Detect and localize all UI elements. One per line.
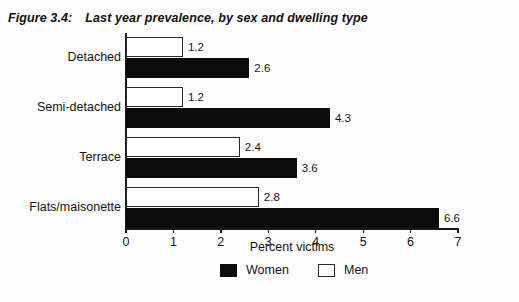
legend-swatch-men-icon xyxy=(318,264,335,277)
chart-plot-area: 012345671.22.61.24.32.43.62.86.6 xyxy=(126,33,458,228)
bar-women-detached xyxy=(126,58,249,78)
bar-women-flats-maisonette xyxy=(126,208,439,228)
bar-value-label: 2.8 xyxy=(264,187,280,207)
x-axis-tick xyxy=(363,228,364,233)
legend-label-women: Women xyxy=(246,263,289,277)
bar-value-label: 3.6 xyxy=(302,158,318,178)
y-axis-category-label: Flats/maisonette xyxy=(1,200,121,214)
bar-women-terrace xyxy=(126,158,297,178)
x-axis-line xyxy=(125,228,458,230)
y-axis-category-label: Semi-detached xyxy=(1,100,121,114)
bar-women-semi-detached xyxy=(126,108,330,128)
legend-swatch-women-icon xyxy=(220,264,237,277)
figure-container: Figure 3.4:Last year prevalence, by sex … xyxy=(0,0,519,302)
bar-men-flats-maisonette xyxy=(126,187,259,207)
bar-value-label: 4.3 xyxy=(335,108,351,128)
page-title: Figure 3.4:Last year prevalence, by sex … xyxy=(8,11,368,25)
chart-legend: Women Men xyxy=(126,261,458,281)
x-axis-tick xyxy=(268,228,269,233)
y-axis-category-label: Terrace xyxy=(1,150,121,164)
bar-men-detached xyxy=(126,37,183,57)
legend-item-women: Women xyxy=(220,261,289,279)
x-axis-title: Percent victims xyxy=(126,240,458,254)
bar-value-label: 2.6 xyxy=(254,58,270,78)
bar-value-label: 1.2 xyxy=(188,37,204,57)
x-axis-tick xyxy=(457,228,458,233)
figure-title-text: Last year prevalence, by sex and dwellin… xyxy=(85,11,368,25)
x-axis-tick xyxy=(315,228,316,233)
x-axis-tick xyxy=(410,228,411,233)
bar-value-label: 6.6 xyxy=(444,208,460,228)
legend-item-men: Men xyxy=(318,261,368,279)
x-axis-tick xyxy=(125,228,126,233)
bar-men-semi-detached xyxy=(126,87,183,107)
bar-value-label: 2.4 xyxy=(245,137,261,157)
bar-value-label: 1.2 xyxy=(188,87,204,107)
legend-label-men: Men xyxy=(344,263,368,277)
y-axis-category-label: Detached xyxy=(1,50,121,64)
y-axis-category-labels: DetachedSemi-detachedTerraceFlats/maison… xyxy=(0,33,121,228)
x-axis-tick xyxy=(173,228,174,233)
bar-men-terrace xyxy=(126,137,240,157)
x-axis-tick xyxy=(220,228,221,233)
figure-number: Figure 3.4: xyxy=(8,11,72,25)
